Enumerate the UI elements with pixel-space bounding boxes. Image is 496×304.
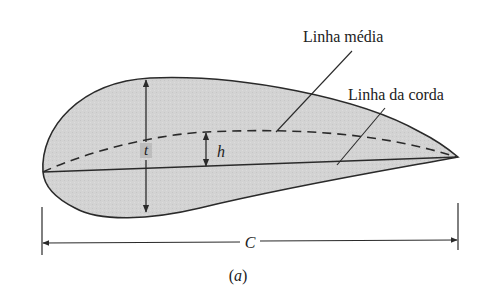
camber-label: h	[217, 143, 225, 160]
figure-caption: (a)	[229, 267, 248, 285]
chord-dimension-left	[43, 242, 240, 243]
chord-length-label: C	[245, 234, 256, 251]
chord-line-label: Linha da corda	[348, 86, 444, 103]
mean-line-label: Linha média	[303, 28, 383, 45]
chord-dimension-right	[260, 240, 457, 241]
airfoil-diagram: t h Linha média Linha da corda C (a)	[0, 0, 496, 304]
